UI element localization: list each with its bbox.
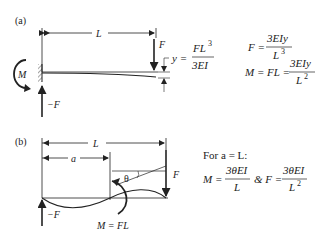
b-eq-f-numerator: 3θEI: [282, 164, 306, 176]
b-eq-m-lhs: M =: [202, 173, 222, 185]
panel-a-label: (a): [15, 15, 26, 27]
eq1-denominator: L: [272, 49, 279, 61]
b-eq-f-denominator-exponent: 2: [297, 179, 301, 188]
panel-b: (b) L a θ F M = FL −F For a: [15, 136, 307, 231]
b-reaction-label: −F: [47, 209, 61, 220]
b-eq-joiner: & F =: [254, 173, 282, 185]
a-label: a: [71, 153, 76, 164]
beam-diagram: (a) L F y = FL 3 3EI M −F: [0, 0, 323, 234]
panel-b-label: (b): [15, 136, 27, 148]
deflection-lhs: y =: [171, 52, 187, 64]
b-length-label: L: [92, 138, 99, 149]
moment-label: M: [17, 69, 27, 80]
panel-a: (a) L F y = FL 3 3EI M −F: [14, 15, 315, 117]
moment-arrowhead: [24, 84, 31, 92]
b-load-label: F: [172, 169, 180, 180]
deflection-numerator-exponent: 3: [208, 39, 212, 48]
eq1-numerator: 3EIy: [266, 32, 288, 44]
b-deflected-beam: [42, 190, 166, 208]
eq1-lhs: F =: [247, 41, 265, 53]
condition-text: For a = L:: [203, 149, 247, 161]
b-eq-m-numerator: 3θEI: [225, 164, 249, 176]
eq2-denominator-exponent: 2: [304, 72, 308, 81]
a-arrowhead-left: [43, 155, 49, 161]
reaction-label: −F: [47, 99, 61, 110]
b-moment-arc: [112, 181, 127, 214]
b-eq-m-denominator: L: [233, 181, 240, 193]
theta-label: θ: [124, 173, 129, 184]
eq1-denominator-exponent: 3: [281, 47, 285, 56]
load-label: F: [158, 39, 166, 50]
arrowhead-left: [44, 30, 50, 36]
length-label: L: [95, 28, 102, 39]
eq2-numerator: 3EIy: [289, 57, 311, 69]
eq2-lhs: M = FL =: [244, 66, 290, 78]
b-moment-label: M = FL: [96, 220, 129, 231]
b-length-arrowhead-left: [43, 140, 49, 146]
eq2-denominator: L: [295, 74, 302, 86]
deflection-denominator: 3EI: [191, 59, 209, 71]
deflection-numerator: FL: [192, 42, 206, 54]
deflected-beam: [42, 73, 156, 77]
b-eq-f-denominator: L: [288, 181, 295, 193]
fixed-wall-hatch: [38, 64, 42, 82]
